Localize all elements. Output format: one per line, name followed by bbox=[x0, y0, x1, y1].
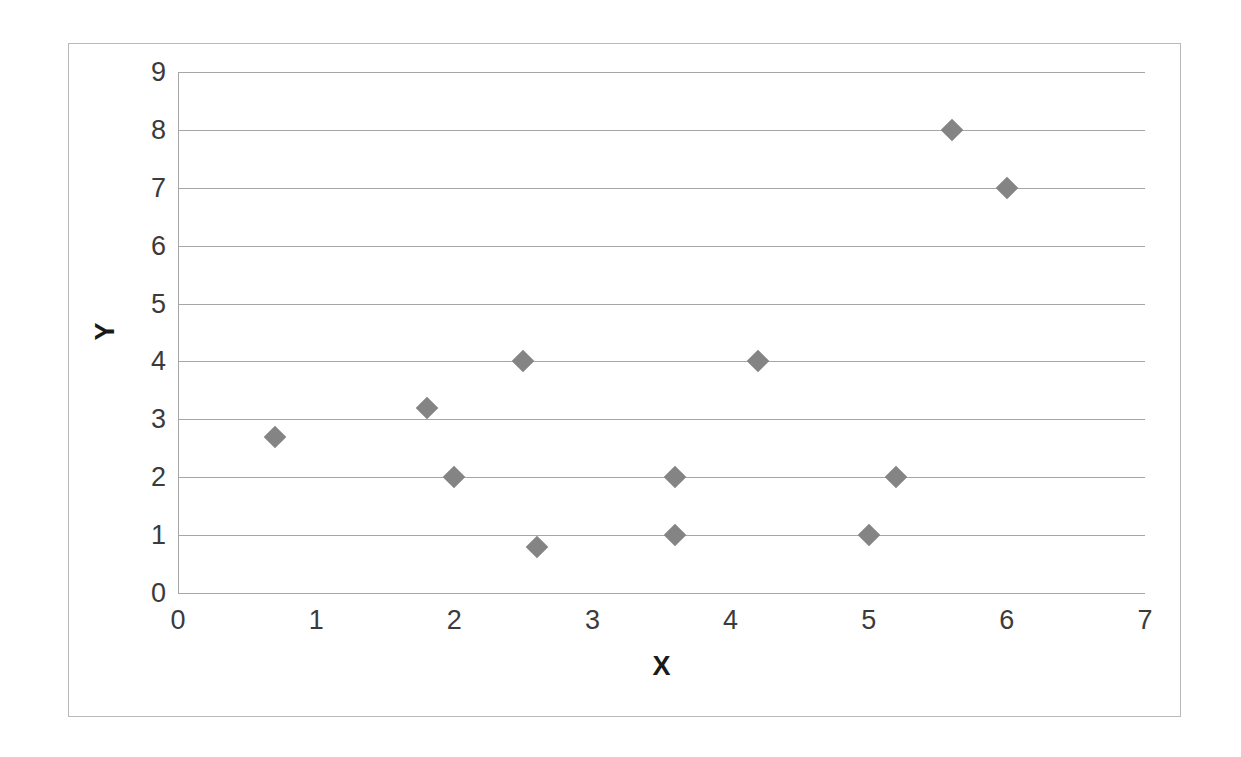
y-tick-label-9: 9 bbox=[126, 59, 166, 86]
plot-area bbox=[178, 72, 1145, 593]
x-axis-title: X bbox=[178, 651, 1145, 682]
y-tick-label-0: 0 bbox=[126, 580, 166, 607]
x-axis-title-text: X bbox=[652, 651, 670, 682]
y-tick-label-3: 3 bbox=[126, 406, 166, 433]
x-tick-label-4: 4 bbox=[701, 607, 761, 634]
data-point-marker bbox=[996, 176, 1019, 199]
y-tick-label-7: 7 bbox=[126, 174, 166, 201]
x-tick-label-5: 5 bbox=[839, 607, 899, 634]
y-tick-label-1: 1 bbox=[126, 522, 166, 549]
data-point-marker bbox=[885, 466, 908, 489]
data-point-marker bbox=[857, 524, 880, 547]
x-tick-label-1: 1 bbox=[286, 607, 346, 634]
data-point-marker bbox=[443, 466, 466, 489]
data-point-marker bbox=[263, 425, 286, 448]
gridline-y-3 bbox=[178, 419, 1145, 420]
x-tick-label-6: 6 bbox=[977, 607, 1037, 634]
data-point-marker bbox=[526, 535, 549, 558]
y-tick-label-5: 5 bbox=[126, 290, 166, 317]
gridline-y-4 bbox=[178, 361, 1145, 362]
data-point-marker bbox=[415, 396, 438, 419]
x-tick-label-7: 7 bbox=[1115, 607, 1175, 634]
data-point-marker bbox=[664, 466, 687, 489]
y-tick-label-6: 6 bbox=[126, 232, 166, 259]
data-point-marker bbox=[664, 524, 687, 547]
gridline-y-0 bbox=[178, 593, 1145, 594]
gridline-y-2 bbox=[178, 477, 1145, 478]
gridline-y-6 bbox=[178, 246, 1145, 247]
x-tick-label-3: 3 bbox=[562, 607, 622, 634]
gridline-y-5 bbox=[178, 304, 1145, 305]
y-tick-label-4: 4 bbox=[126, 348, 166, 375]
y-tick-label-2: 2 bbox=[126, 464, 166, 491]
gridline-y-9 bbox=[178, 72, 1145, 73]
y-tick-label-8: 8 bbox=[126, 116, 166, 143]
data-point-marker bbox=[512, 350, 535, 373]
x-tick-label-0: 0 bbox=[148, 607, 208, 634]
gridline-y-8 bbox=[178, 130, 1145, 131]
x-tick-label-2: 2 bbox=[424, 607, 484, 634]
data-point-marker bbox=[940, 119, 963, 142]
data-point-marker bbox=[747, 350, 770, 373]
y-axis-title: Y bbox=[90, 322, 121, 340]
gridline-y-1 bbox=[178, 535, 1145, 536]
